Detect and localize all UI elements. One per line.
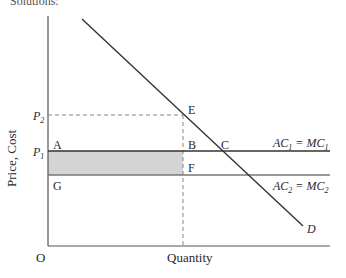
p1-tick-label: P1 (33, 146, 44, 163)
x-axis-label: Quantity (167, 252, 213, 264)
ac1-mc1-label: AC1 = MC1 (273, 137, 328, 154)
p2-tick-label: P2 (33, 110, 44, 127)
point-b-label: B (188, 139, 196, 151)
point-c-label: C (221, 139, 229, 151)
point-a-label: A (53, 139, 62, 151)
ac2-mc2-label: AC2 = MC2 (273, 180, 328, 197)
demand-label: D (307, 223, 316, 235)
demand-curve (82, 19, 303, 226)
point-e-label: E (188, 104, 195, 116)
point-g-label: G (53, 180, 62, 192)
y-axis-label: Price, Cost (4, 130, 20, 187)
point-f-label: F (188, 162, 195, 174)
shaded-area-abfg (48, 151, 183, 175)
origin-label: O (36, 252, 45, 264)
